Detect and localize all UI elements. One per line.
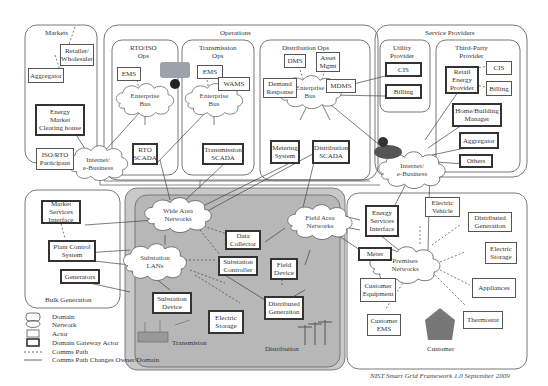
legend-actor: Actor xyxy=(52,330,68,338)
legend-domain: Domain xyxy=(52,313,75,321)
electric-vehicle-actor: Electric Vehicle xyxy=(425,197,460,217)
iso-rto-participant-actor: ISO/RTO Participant xyxy=(36,148,74,170)
retail-energy-provider-gateway: Retail Energy Provider xyxy=(445,66,479,94)
electric-storage-customer-actor: Electric Storage xyxy=(485,242,517,264)
metering-system-gateway: Metering System xyxy=(270,140,300,164)
transmission-scada-gateway: Transmission SCADA xyxy=(202,143,244,165)
cis-utility-gateway: CIS xyxy=(385,62,422,77)
electric-storage-dist-gateway: Electric Storage xyxy=(208,310,244,334)
service-providers-label: Service Providers xyxy=(425,29,475,37)
enterprise-bus-transmission: Enterprise Bus xyxy=(194,91,234,109)
internet-network-right: Internet/ e-Business xyxy=(392,161,432,179)
meter-gateway: Meter xyxy=(358,247,392,261)
enterprise-bus-rto: Enterprise Bus xyxy=(125,91,165,109)
mdms-actor: MDMS xyxy=(326,79,356,93)
home-building-manager-gateway: Home/Building Manager xyxy=(452,103,502,127)
operators-image-icon xyxy=(160,62,190,89)
wams-actor: WAMS xyxy=(218,77,250,91)
legend-comms-path: Comms Path xyxy=(52,348,88,356)
internet-network-left: Internet/ e-Business xyxy=(78,155,118,173)
generators-gateway: Generators xyxy=(60,269,100,284)
energy-services-interface-gateway: Energy Services Interface xyxy=(365,205,399,237)
distribution-label: Distribution xyxy=(265,345,299,353)
customer-equipment-actor: Customer Equipment xyxy=(360,278,396,302)
thermostat-actor: Thermostat xyxy=(463,311,503,329)
house-image-icon xyxy=(425,308,455,340)
cis-third-party-actor: CIS xyxy=(486,61,512,75)
operations-domain-label: Operations xyxy=(220,29,251,37)
ems-rto-actor: EMS xyxy=(117,67,141,81)
energy-market-clearing-house-gateway: Energy Market Clearing house xyxy=(35,104,85,136)
appliances-actor: Appliances xyxy=(472,278,516,298)
billing-third-party-actor: Billing xyxy=(486,81,512,96)
legend-comms-path-changes: Comms Path Changes Owner/Domain xyxy=(52,356,159,364)
distribution-ops-label: Distribution Ops xyxy=(282,44,329,52)
rto-scada-gateway: RTO SCADA xyxy=(132,143,158,165)
data-collector-gateway: Data Collector xyxy=(225,230,261,250)
substation-lans: Substation LANs xyxy=(135,253,175,271)
dms-actor: DMS xyxy=(284,54,306,68)
aggregator-markets-actor: Aggregator xyxy=(28,68,64,83)
utility-provider-label: Utility Provider xyxy=(390,44,414,60)
customer-label: Customer xyxy=(427,345,454,353)
plant-control-system-gateway: Plant Control System xyxy=(48,240,96,262)
retailer-wholesaler-actor: Retailer/ Wholesaler xyxy=(60,44,94,66)
rto-iso-ops-label: RTO/ISO Ops xyxy=(130,44,157,60)
third-party-provider-label: Third-Party Provider xyxy=(455,44,488,60)
bulk-generation-label: Bulk Generation xyxy=(45,296,91,304)
transmission-label: Transmision xyxy=(172,339,207,347)
markets-domain-label: Markets xyxy=(45,29,68,37)
market-services-interface-gateway: Market Services Interface xyxy=(41,200,81,224)
legend-gateway-actor: Domain Gateway Actor xyxy=(52,339,118,347)
distribution-scada-gateway: Distribution SCADA xyxy=(312,140,350,164)
asset-mgmt-actor: Asset Mgmt xyxy=(316,52,340,72)
wide-area-networks: Wide Area Networks xyxy=(158,206,198,224)
others-gateway: Others xyxy=(459,154,493,168)
distributed-generation-dist-gateway: Distributed Generation xyxy=(264,296,304,320)
substation-controller-gateway: Substation Controller xyxy=(218,256,258,276)
legend-network: Network xyxy=(52,321,77,329)
customer-ems-actor: Customer EMS xyxy=(367,314,401,336)
aggregator-sp-gateway: Aggregator xyxy=(459,132,499,149)
transmission-ops-label: Transmission Ops xyxy=(199,44,236,60)
distributed-generation-customer-actor: Distributed Generation xyxy=(468,212,512,232)
substation-device-gateway: Substation Device xyxy=(152,292,192,314)
field-area-networks: Field Area Networks xyxy=(300,213,340,231)
figure-caption: NIST Smart Grid Framework 1.0 September … xyxy=(370,372,510,380)
billing-utility-gateway: Billing xyxy=(385,84,422,99)
field-device-gateway: Field Device xyxy=(270,258,298,280)
demand-response-actor: Demand Response xyxy=(263,78,297,98)
